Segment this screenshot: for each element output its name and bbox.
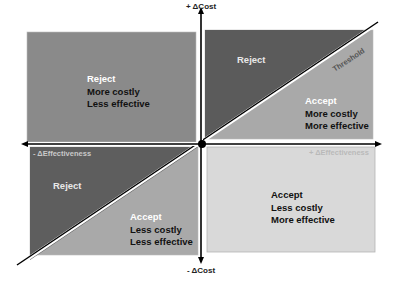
effect-text: More effective (271, 214, 335, 227)
decision-reject: Reject (87, 73, 150, 86)
decision-reject: Reject (53, 180, 82, 193)
decision-accept: Accept (305, 95, 369, 108)
axis-label-cost-positive: + ΔCost (186, 2, 216, 11)
effect-text: Less effective (130, 236, 193, 249)
axis-label-effectiveness-positive: + ΔEffectiveness (309, 148, 369, 157)
cost-text: Less costly (130, 224, 193, 237)
effect-text: More effective (305, 120, 369, 133)
axis-label-effectiveness-negative: - ΔEffectiveness (33, 149, 91, 158)
quadrant-bottom-left-accept-label: Accept Less costly Less effective (130, 211, 193, 249)
quadrant-top-left-label: Reject More costly Less effective (87, 73, 150, 111)
quadrant-top-right-reject-label: Reject (237, 54, 266, 67)
decision-accept: Accept (130, 211, 193, 224)
axis-label-cost-negative: - ΔCost (187, 266, 215, 275)
quadrant-top-right-accept-label: Accept More costly More effective (305, 95, 369, 133)
diagram-graphics (0, 0, 400, 289)
quadrant-bottom-left-reject-label: Reject (53, 180, 82, 193)
cost-text: Less costly (271, 202, 335, 215)
decision-accept: Accept (271, 189, 335, 202)
cost-text: More costly (87, 86, 150, 99)
arrow-down-icon (198, 257, 204, 264)
decision-reject: Reject (237, 54, 266, 67)
cost-text: More costly (305, 108, 369, 121)
origin-dot (198, 140, 206, 148)
arrow-right-icon (375, 141, 382, 147)
effect-text: Less effective (87, 98, 150, 111)
arrow-left-icon (21, 141, 28, 147)
cost-effectiveness-plane: + ΔCost - ΔCost - ΔEffectiveness + ΔEffe… (0, 0, 400, 289)
quadrant-bottom-right-label: Accept Less costly More effective (271, 189, 335, 227)
